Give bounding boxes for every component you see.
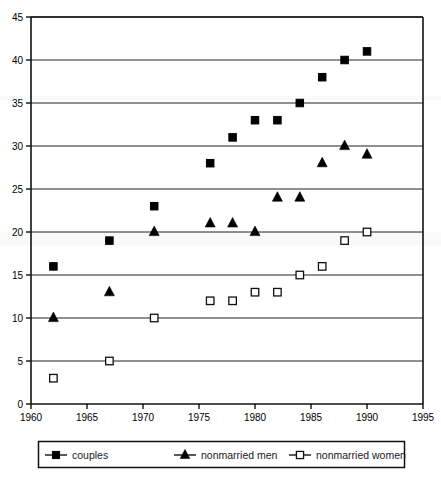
plot-axes <box>31 17 423 404</box>
data-point <box>106 237 114 245</box>
data-point <box>106 357 114 365</box>
data-point <box>206 297 214 305</box>
data-point <box>296 99 304 107</box>
data-point <box>229 134 237 142</box>
legend-marker-filled-square <box>52 451 59 458</box>
data-point <box>48 312 58 322</box>
data-point <box>206 159 214 167</box>
data-point <box>150 202 158 210</box>
data-point <box>50 263 58 271</box>
data-point <box>150 314 158 322</box>
data-point <box>317 157 327 167</box>
data-point <box>341 56 349 64</box>
chart-legend: couplesnonmarried mennonmarried women <box>39 442 407 468</box>
y-tick-label: 10 <box>12 313 24 324</box>
x-tick-label: 1990 <box>356 412 379 423</box>
data-point <box>363 228 371 236</box>
y-tick-label: 45 <box>12 12 24 23</box>
x-tick-label: 1985 <box>300 412 323 423</box>
scatter-plot: 051015202530354045 196019651970197519801… <box>0 0 441 478</box>
legend-label: nonmarried men <box>201 449 278 461</box>
data-point <box>205 218 215 228</box>
y-tick-label: 30 <box>12 141 24 152</box>
y-axis-ticks: 051015202530354045 <box>12 12 31 410</box>
data-point <box>149 226 159 236</box>
data-point <box>274 288 282 296</box>
y-tick-label: 35 <box>12 98 24 109</box>
chart-container: 051015202530354045 196019651970197519801… <box>0 0 441 478</box>
data-point <box>250 226 260 236</box>
data-point <box>340 140 350 150</box>
y-tick-label: 15 <box>12 270 24 281</box>
x-tick-label: 1965 <box>76 412 99 423</box>
legend-marker-open-square <box>296 451 303 458</box>
series-nonmarried-women <box>50 228 371 382</box>
x-tick-label: 1960 <box>20 412 43 423</box>
x-tick-label: 1970 <box>132 412 155 423</box>
data-point <box>274 116 282 124</box>
data-point <box>341 237 349 245</box>
data-point <box>318 263 326 271</box>
data-point <box>228 218 238 228</box>
data-point <box>318 73 326 81</box>
data-point <box>363 48 371 56</box>
data-point <box>362 149 372 159</box>
data-point <box>272 192 282 202</box>
y-tick-label: 40 <box>12 55 24 66</box>
data-point <box>296 271 304 279</box>
y-tick-label: 25 <box>12 184 24 195</box>
x-tick-label: 1975 <box>188 412 211 423</box>
x-axis-ticks: 19601965197019751980198519901995 <box>20 404 435 423</box>
data-point <box>251 116 259 124</box>
y-tick-label: 5 <box>17 356 23 367</box>
x-tick-label: 1980 <box>244 412 267 423</box>
plot-gridlines <box>31 17 423 361</box>
data-point <box>50 374 58 382</box>
x-tick-label: 1995 <box>412 412 435 423</box>
y-tick-label: 0 <box>17 399 23 410</box>
data-point <box>295 192 305 202</box>
data-point <box>251 288 259 296</box>
legend-label: nonmarried women <box>316 449 406 461</box>
y-tick-label: 20 <box>12 227 24 238</box>
legend-label: couples <box>72 449 108 461</box>
data-point <box>229 297 237 305</box>
data-point <box>104 286 114 296</box>
